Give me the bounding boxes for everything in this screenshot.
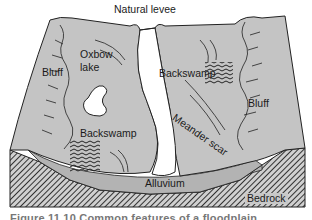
label-alluvium: Alluvium xyxy=(145,178,185,189)
floodplain-diagram: Natural levee Oxbow lake Bluff Backswamp… xyxy=(0,0,312,220)
backswamp-pattern-bottom xyxy=(70,140,100,172)
label-bluff-left: Bluff xyxy=(42,67,63,78)
label-bluff-right: Bluff xyxy=(248,98,269,109)
figure-caption: Figure 11.10 Common features of a floodp… xyxy=(10,212,257,220)
label-oxbow-lake-line2: lake xyxy=(80,62,99,73)
label-oxbow-lake-line1: Oxbow xyxy=(80,49,113,60)
label-bedrock: Bedrock xyxy=(245,193,288,204)
label-backswamp-top: Backswamp xyxy=(159,68,216,79)
label-natural-levee: Natural levee xyxy=(114,4,176,15)
label-backswamp-bottom: Backswamp xyxy=(80,128,137,139)
